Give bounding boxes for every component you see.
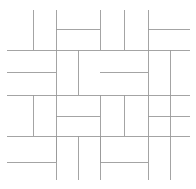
pattern-background	[0, 0, 196, 189]
pattern-svg-canvas	[0, 0, 196, 189]
basketweave-pattern-figure	[0, 0, 196, 189]
